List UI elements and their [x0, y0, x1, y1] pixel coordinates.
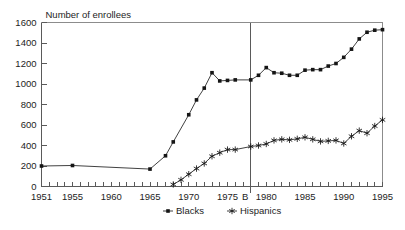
reference-line-b-label: B [242, 191, 248, 202]
data-point-marker-square [373, 28, 377, 32]
data-point-marker-square [365, 30, 369, 34]
data-point-marker-square [295, 73, 299, 77]
data-point-marker-square [326, 64, 330, 68]
data-point-marker-square [210, 71, 214, 75]
x-axis-tick-label: 1951 [31, 191, 52, 202]
y-axis-title-group: Number of enrollees [46, 9, 132, 20]
x-axis-tick-label: 1970 [178, 191, 199, 202]
data-point-marker-square [334, 62, 338, 66]
chart-figure: Number of enrollees 02004006008001000120… [0, 0, 405, 230]
legend-label-blacks: Blacks [176, 205, 204, 216]
x-axis-tick-label: 1965 [139, 191, 160, 202]
data-point-marker-square [357, 37, 361, 41]
data-point-marker-square [40, 164, 44, 168]
data-point-marker-square [311, 68, 315, 72]
y-axis-tick-label: 600 [21, 119, 37, 130]
data-point-marker-square [249, 78, 253, 82]
data-point-marker-square [264, 66, 268, 70]
data-point-marker-square [71, 164, 75, 168]
data-point-marker-square [171, 140, 175, 144]
data-point-marker-square [164, 154, 168, 158]
data-point-marker-square [226, 79, 230, 83]
x-axis-tick-label: 1990 [333, 191, 354, 202]
data-point-marker-square [233, 78, 237, 82]
data-point-marker-square [272, 71, 276, 75]
x-axis-tick-label: 1985 [294, 191, 315, 202]
x-axis-tick-label: 1960 [101, 191, 122, 202]
x-axis-tick-label: 1980 [256, 191, 277, 202]
y-axis-tick-label: 1000 [15, 78, 36, 89]
data-point-marker-square [288, 73, 292, 77]
x-axis-tick-label: 1995 [372, 191, 393, 202]
y-axis-tick-label: 800 [21, 99, 37, 110]
data-point-marker-square [166, 209, 170, 213]
data-point-marker-square [319, 68, 323, 72]
x-axis-tick-label: 1955 [62, 191, 83, 202]
data-point-marker-square [381, 28, 385, 32]
data-point-marker-square [187, 113, 191, 117]
data-point-marker-square [218, 79, 222, 83]
y-axis-tick-label: 1600 [15, 17, 36, 28]
x-axis-tick-label: 1975 [217, 191, 238, 202]
data-point-marker-square [148, 167, 152, 171]
y-axis-tick-label: 400 [21, 140, 37, 151]
data-point-marker-square [342, 56, 346, 60]
data-point-marker-square [257, 73, 261, 77]
y-axis-tick-label: 200 [21, 160, 37, 171]
y-axis-title: Number of enrollees [46, 9, 132, 20]
data-point-marker-square [202, 86, 206, 90]
enrollees-line-chart: Number of enrollees 02004006008001000120… [0, 0, 405, 230]
data-point-marker-square [303, 68, 307, 72]
data-point-marker-square [350, 47, 354, 51]
y-axis-tick-label: 1200 [15, 58, 36, 69]
data-point-marker-square [195, 98, 199, 102]
legend-label-hispanics: Hispanics [240, 205, 281, 216]
y-axis-tick-label: 1400 [15, 37, 36, 48]
data-point-marker-square [280, 71, 284, 75]
